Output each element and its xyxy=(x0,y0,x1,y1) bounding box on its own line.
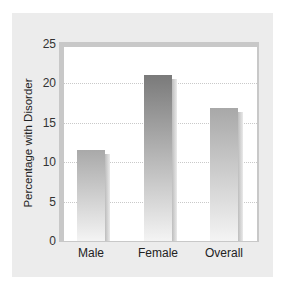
y-tick-label: 25 xyxy=(36,38,56,50)
bar-female xyxy=(144,75,172,241)
y-tick-label: 0 xyxy=(36,235,56,247)
x-tick-label: Overall xyxy=(194,246,254,260)
bar-male xyxy=(77,150,105,241)
y-axis-label: Percentage with Disorder xyxy=(22,78,34,207)
y-tick-label: 15 xyxy=(36,117,56,129)
x-tick-label: Female xyxy=(128,246,188,260)
x-tick-label: Male xyxy=(61,246,121,260)
y-tick-label: 5 xyxy=(36,196,56,208)
bar-overall xyxy=(210,108,238,241)
y-tick-label: 20 xyxy=(36,77,56,89)
y-tick-label: 10 xyxy=(36,156,56,168)
